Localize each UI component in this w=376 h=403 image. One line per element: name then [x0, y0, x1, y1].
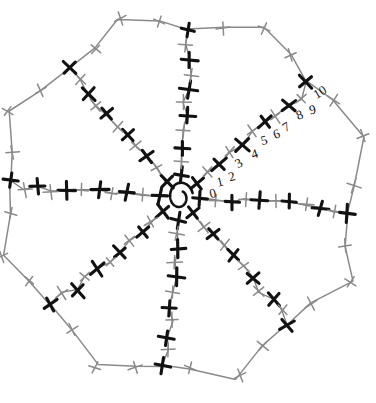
center-spiral [170, 183, 192, 207]
petal-tick [328, 94, 340, 106]
ray-tick [152, 188, 168, 204]
petal-tick [115, 12, 126, 25]
ray-tick [166, 286, 180, 298]
ray-tick [176, 122, 190, 138]
ray-tick [162, 301, 176, 316]
petal-connector [4, 180, 50, 305]
ray-tick [114, 246, 126, 258]
petal-connector [9, 68, 69, 179]
scale-label-2: 2 [226, 168, 236, 184]
ray-tick [136, 188, 149, 201]
scale-label-1: 1 [215, 173, 225, 189]
ray-tick [212, 158, 227, 170]
petal-tick [89, 362, 101, 373]
ray-tick [75, 74, 86, 85]
ray-tick [187, 207, 199, 218]
ray-spine [69, 67, 166, 183]
ray-tick [280, 319, 295, 331]
ray-tick [91, 261, 104, 276]
ray-tick [91, 182, 109, 198]
ray-tick [225, 195, 239, 209]
petal-tick [36, 84, 47, 96]
ray-tick [191, 178, 203, 189]
ray-tick [236, 139, 250, 152]
ray-tick [101, 108, 113, 119]
petal-connector [71, 20, 189, 67]
petal-tick [128, 362, 142, 374]
ray-tick [174, 155, 188, 168]
ray-tick [181, 52, 198, 67]
ray-tick [80, 272, 89, 281]
ray-tick [203, 167, 212, 177]
petal-tick [339, 239, 352, 252]
ray-tick [58, 181, 76, 199]
ray-tick [251, 192, 268, 209]
ray-tick [179, 81, 197, 99]
ray-tick [178, 38, 192, 52]
petal-tick [6, 146, 20, 159]
scale-label-8: 8 [294, 106, 305, 122]
figure-canvas: 012345678910 [0, 0, 376, 403]
petal-connector [162, 325, 286, 380]
ray-tick [137, 227, 149, 237]
petal-tick [2, 107, 13, 116]
scale-label-7: 7 [280, 118, 294, 134]
petal-tick [235, 369, 246, 382]
ray-tick [168, 268, 185, 286]
ray-tick [228, 249, 239, 261]
ray-tick [161, 343, 175, 357]
ray-tick [238, 261, 249, 272]
petal-tick [258, 23, 270, 34]
scale-label-6: 6 [271, 125, 282, 141]
ray-tick [207, 229, 219, 239]
ray-tick [270, 194, 282, 207]
ray-tick [119, 184, 134, 200]
ray-tick [312, 201, 329, 215]
ray-tick [193, 191, 208, 205]
ray-tick [106, 258, 115, 267]
ray-tick [175, 141, 190, 155]
tick-number-scale: 012345678910 [208, 82, 329, 201]
ray-tick [140, 150, 153, 162]
ray-tick [167, 255, 183, 269]
ray-tick [3, 173, 18, 187]
petal-tick [347, 178, 361, 193]
ray-tick [158, 331, 174, 345]
ray-tick [113, 122, 123, 133]
ray-tick [340, 204, 356, 222]
petal-connector [287, 214, 353, 325]
ray-tick [180, 107, 196, 123]
ray-tick [156, 204, 169, 218]
ray-tick [122, 129, 133, 140]
petal-tick [306, 297, 317, 310]
petal-tick [216, 22, 230, 35]
ray-tick [82, 88, 95, 101]
petal-connector [187, 27, 305, 81]
ray-tick [247, 125, 258, 137]
ray-tick [254, 286, 264, 296]
ray-tick [155, 358, 171, 374]
ray-tick [259, 116, 272, 128]
scale-label-9: 9 [308, 101, 318, 117]
ray-tick [268, 293, 279, 306]
ray-tick [296, 94, 306, 103]
ray-tick [161, 175, 173, 188]
ray-tick [282, 194, 296, 208]
ray-tick [130, 141, 141, 150]
petal-connector [50, 303, 163, 366]
scale-label-4: 4 [249, 145, 260, 161]
scale-label-5: 5 [259, 132, 269, 148]
ray-tick [247, 273, 259, 284]
rosette-drawing: 012345678910 [0, 0, 376, 403]
ray-tick [56, 286, 68, 299]
scale-label-3: 3 [232, 155, 245, 171]
ray-tick [181, 23, 194, 37]
ray-tick [63, 62, 76, 74]
ray-tick [171, 240, 186, 258]
